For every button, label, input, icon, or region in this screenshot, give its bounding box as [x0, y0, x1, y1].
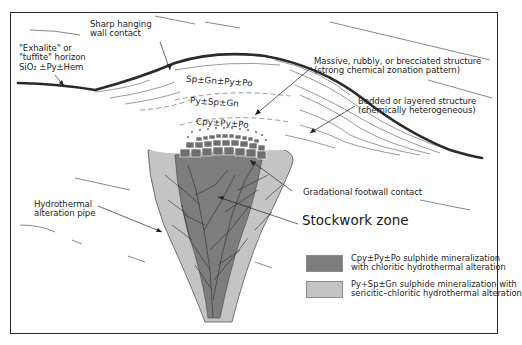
label-footwall-contact: Gradational footwall contact	[303, 188, 422, 197]
legend-line: sericitic–chloritic hydrothermal alterat…	[351, 289, 522, 298]
label-line: SiO₂ ±Py±Hem	[19, 63, 86, 72]
label-line: (strong chemical zonation pattern)	[314, 66, 481, 75]
label-line: alteration pipe	[34, 209, 95, 218]
legend-line: with chloritic hydrothermal alteration	[351, 263, 506, 272]
label-massive-structure: Massive, rubbly, or brecciated structure…	[314, 57, 481, 76]
label-hanging-wall-contact: Sharp hanging wall contact	[90, 20, 152, 39]
legend-text: Cpy±Py±Po sulphide mineralization with c…	[351, 254, 506, 272]
legend-swatch-light	[306, 281, 343, 298]
label-alteration-pipe: Hydrothermal alteration pipe	[34, 200, 95, 219]
legend-swatch-dark	[306, 255, 343, 272]
label-line: wall contact	[90, 29, 152, 38]
label-bedded-structure: Bedded or layered structure (chemically …	[358, 97, 476, 116]
label-exhalite-horizon: "Exhalite" or "tuffite" horizon SiO₂ ±Py…	[19, 44, 86, 72]
label-line: (chemically heterogeneous)	[358, 106, 476, 115]
legend-text: Py+Sp±Gn sulphide mineralization with se…	[351, 280, 522, 298]
label-stockwork-zone: Stockwork zone	[302, 212, 409, 228]
